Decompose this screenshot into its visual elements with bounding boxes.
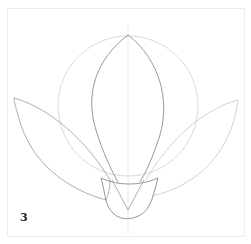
left-petal-outline (14, 98, 110, 200)
right-petal-outline (146, 100, 238, 196)
lotus-drawing (0, 0, 251, 244)
step-number-label: 3 (20, 211, 28, 224)
